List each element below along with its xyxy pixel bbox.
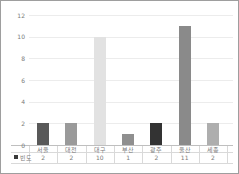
y-tick-label: 4 xyxy=(5,98,25,105)
y-tick-label: 10 xyxy=(5,33,25,40)
gridline xyxy=(29,58,233,59)
category-label: 대구 xyxy=(86,146,114,153)
category-label: 세종 xyxy=(199,146,227,153)
gridline xyxy=(29,102,233,103)
y-tick-label: 0 xyxy=(5,142,25,149)
y-tick-label: 6 xyxy=(5,77,25,84)
gridline xyxy=(29,80,233,81)
legend-series-label: 빈도 xyxy=(20,154,32,161)
table-vline xyxy=(227,146,228,164)
category-label: 부산 xyxy=(114,146,142,153)
gridline xyxy=(29,123,233,124)
value-label: 2 xyxy=(29,154,57,161)
value-label: 11 xyxy=(171,154,199,161)
chart-frame: 024681012 서울대전대구부산광주울산세종221012112 빈도 xyxy=(0,0,239,174)
y-tick-label: 12 xyxy=(5,12,25,19)
bar xyxy=(65,123,77,145)
bar xyxy=(207,123,219,145)
bar xyxy=(150,123,162,145)
bar xyxy=(179,26,191,145)
category-label: 대전 xyxy=(57,146,85,153)
value-label: 2 xyxy=(57,154,85,161)
value-label: 2 xyxy=(199,154,227,161)
value-label: 2 xyxy=(142,154,170,161)
value-label: 10 xyxy=(86,154,114,161)
bar xyxy=(94,37,106,145)
value-label: 1 xyxy=(114,154,142,161)
bar xyxy=(122,134,134,145)
category-label: 광주 xyxy=(142,146,170,153)
gridline xyxy=(29,37,233,38)
bar xyxy=(37,123,49,145)
category-label: 서울 xyxy=(29,146,57,153)
legend-marker-icon xyxy=(14,155,18,159)
category-label: 울산 xyxy=(171,146,199,153)
gridline xyxy=(29,15,233,16)
y-tick-label: 2 xyxy=(5,120,25,127)
y-tick-label: 8 xyxy=(5,55,25,62)
